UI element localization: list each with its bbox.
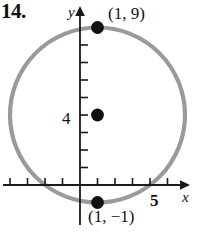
x-axis-ticks bbox=[10, 178, 168, 185]
point-label-top: (1, 9) bbox=[108, 5, 145, 22]
data-point-center bbox=[91, 109, 104, 122]
point-label-bottom: (1, −1) bbox=[88, 208, 134, 225]
y-axis-arrowhead bbox=[75, 6, 85, 16]
coordinate-plane-graphic bbox=[0, 0, 198, 235]
data-point-top bbox=[91, 21, 104, 34]
x-axis-tick-label-5: 5 bbox=[150, 192, 159, 209]
geometry-figure: 14. bbox=[0, 0, 198, 235]
y-axis-tick-label-4: 4 bbox=[62, 110, 71, 127]
x-axis-label: x bbox=[182, 190, 189, 205]
y-axis-ticks bbox=[80, 45, 88, 168]
y-axis-label: y bbox=[68, 5, 75, 20]
